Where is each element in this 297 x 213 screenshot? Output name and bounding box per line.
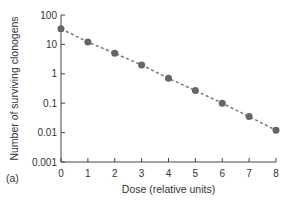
data-point <box>246 113 253 120</box>
data-point <box>84 39 91 46</box>
data-point <box>138 61 145 68</box>
data-series <box>58 25 280 133</box>
y-tick-label: 1 <box>51 68 57 79</box>
x-tick-label: 0 <box>58 168 64 179</box>
data-point <box>192 87 199 94</box>
data-point <box>219 100 226 107</box>
y-tick-label: 0.001 <box>32 157 57 168</box>
x-tick-label: 5 <box>193 168 199 179</box>
x-tick-label: 4 <box>166 168 172 179</box>
x-axis-label: Dose (relative units) <box>122 183 215 195</box>
data-point <box>111 50 118 57</box>
y-tick-label: 0.1 <box>43 98 57 109</box>
data-point <box>165 75 172 82</box>
y-tick-label: 0.01 <box>38 127 58 138</box>
axes: 1001010.10.010.001012345678Dose (relativ… <box>6 10 279 196</box>
y-axis-label: Number of surviving clonogens <box>8 16 20 160</box>
y-tick-label: 100 <box>40 10 57 21</box>
panel-label: (a) <box>6 172 19 184</box>
x-tick-label: 1 <box>85 168 91 179</box>
x-tick-label: 3 <box>139 168 145 179</box>
survival-chart: 1001010.10.010.001012345678Dose (relativ… <box>0 0 297 213</box>
x-tick-label: 2 <box>112 168 118 179</box>
y-tick-label: 10 <box>46 39 58 50</box>
x-tick-label: 7 <box>246 168 252 179</box>
data-point <box>58 25 65 32</box>
x-tick-label: 8 <box>273 168 279 179</box>
x-tick-label: 6 <box>219 168 225 179</box>
data-point <box>273 127 280 134</box>
